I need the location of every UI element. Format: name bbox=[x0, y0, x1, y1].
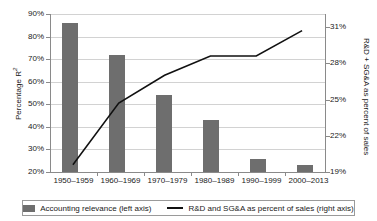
tickmark-left-60 bbox=[46, 82, 50, 83]
tickmark-left-40 bbox=[46, 127, 50, 128]
y-axis-right-title: R&D + SG&A as percent of sales bbox=[362, 38, 371, 155]
tickmark-left-70 bbox=[46, 59, 50, 60]
ytick-label-20: 20% bbox=[16, 168, 44, 176]
y-axis-left-line bbox=[50, 14, 51, 173]
y-axis-right-line bbox=[325, 14, 326, 173]
ytick-label-90: 90% bbox=[16, 10, 44, 18]
ytick-label-80: 80% bbox=[16, 33, 44, 41]
ytick-label-70: 70% bbox=[16, 55, 44, 63]
ytick-label-30: 30% bbox=[16, 145, 44, 153]
legend-bar-swatch-icon bbox=[23, 205, 35, 212]
y2tick-label-25: 25% bbox=[330, 96, 360, 104]
ytick-label-40: 40% bbox=[16, 123, 44, 131]
x-axis-label-2000-2013: 2000–2013 bbox=[285, 176, 332, 185]
bar-1990-1999 bbox=[250, 159, 266, 173]
x-axis-label-1970-1979: 1970–1979 bbox=[144, 176, 191, 185]
y-axis-left-title-superscript: 2 bbox=[12, 68, 18, 71]
x-axis-label-1980-1989: 1980–1989 bbox=[191, 176, 238, 185]
tickmark-left-30 bbox=[46, 149, 50, 150]
gridline-80 bbox=[50, 37, 325, 38]
y2tick-label-28: 28% bbox=[330, 59, 360, 67]
x-axis-label-1960-1969: 1960–1969 bbox=[97, 176, 144, 185]
bar-2000-2013 bbox=[297, 165, 313, 172]
legend-item-rd-sga: R&D and SG&A as percent of sales (right … bbox=[167, 204, 353, 213]
y2tick-label-31: 31% bbox=[330, 23, 360, 31]
tickmark-left-20 bbox=[46, 172, 50, 173]
x-axis-label-1950-1959: 1950–1959 bbox=[50, 176, 97, 185]
tickmark-left-50 bbox=[46, 104, 50, 105]
x-axis-label-1990-1999: 1990–1999 bbox=[238, 176, 285, 185]
y2tick-label-19: 19% bbox=[330, 168, 360, 176]
bar-1980-1989 bbox=[203, 120, 219, 172]
chart-legend: Accounting relevance (left axis) R&D and… bbox=[22, 200, 355, 216]
gridline-60 bbox=[50, 82, 325, 83]
gridline-50 bbox=[50, 104, 325, 105]
legend-item-accounting-relevance: Accounting relevance (left axis) bbox=[23, 204, 151, 213]
legend-label-rd-sga: R&D and SG&A as percent of sales (right … bbox=[188, 204, 353, 213]
legend-line-swatch-icon bbox=[167, 207, 183, 209]
tickmark-left-80 bbox=[46, 37, 50, 38]
gridline-40 bbox=[50, 127, 325, 128]
tickmark-left-90 bbox=[46, 14, 50, 15]
chart-container: 90% 80% 70% 60% 50% 40% 30% 20% 31% 28% … bbox=[0, 0, 377, 221]
plot-area bbox=[50, 14, 325, 172]
y2tick-label-22: 22% bbox=[330, 132, 360, 140]
gridline-90 bbox=[50, 14, 325, 15]
bar-1950-1959 bbox=[62, 23, 78, 172]
bar-1970-1979 bbox=[156, 95, 172, 172]
bar-1960-1969 bbox=[109, 55, 125, 172]
gridline-70 bbox=[50, 59, 325, 60]
y-axis-left-title: Percentage R2 bbox=[11, 68, 23, 120]
gridline-30 bbox=[50, 149, 325, 150]
legend-label-accounting-relevance: Accounting relevance (left axis) bbox=[40, 204, 151, 213]
y-axis-left-title-text: Percentage R bbox=[14, 71, 23, 120]
y-axis-right-ticks: 31% 28% 25% 22% 19% bbox=[330, 0, 360, 221]
